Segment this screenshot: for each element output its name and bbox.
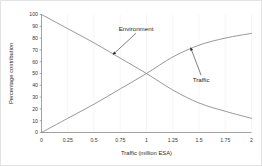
x-tick-label: 0.5 — [90, 137, 97, 143]
annotation-leader-line — [113, 33, 136, 54]
y-tick-label: 70 — [32, 47, 38, 53]
y-tick-label: 50 — [32, 70, 38, 76]
x-tick-label: 2 — [250, 137, 253, 143]
x-axis-title: Traffic (million ESA) — [121, 150, 172, 156]
x-tick-label: 1.25 — [168, 137, 178, 143]
y-axis-ticks: 0102030405060708090100 — [29, 11, 41, 135]
y-tick-label: 80 — [32, 35, 38, 41]
x-tick-label: 0.75 — [115, 137, 125, 143]
y-tick-label: 60 — [32, 59, 38, 65]
y-tick-label: 40 — [32, 82, 38, 88]
gridlines — [68, 15, 252, 133]
y-tick-label: 90 — [32, 23, 38, 29]
y-tick-label: 20 — [32, 106, 38, 112]
y-tick-label: 0 — [35, 129, 38, 135]
x-tick-label: 1.5 — [195, 137, 202, 143]
x-axis-ticks: 00.250.50.7511.251.51.752 — [40, 137, 253, 143]
annotation-label-environment: Environment — [119, 25, 154, 32]
x-tick-label: 0.25 — [63, 137, 73, 143]
annotation-label-traffic: Traffic — [193, 76, 210, 83]
chart-figure: 00.250.50.7511.251.51.752 01020304050607… — [0, 0, 262, 166]
y-tick-label: 100 — [29, 11, 38, 17]
y-axis-title: Percentage contribution — [8, 43, 14, 104]
y-tick-label: 10 — [32, 118, 38, 124]
x-tick-label: 1 — [145, 137, 148, 143]
line-chart: 00.250.50.7511.251.51.752 01020304050607… — [1, 1, 262, 166]
y-tick-label: 30 — [32, 94, 38, 100]
x-tick-label: 0 — [40, 137, 43, 143]
x-tick-label: 1.75 — [220, 137, 230, 143]
series-annotations: EnvironmentTraffic — [113, 25, 210, 83]
annotation-leader-line — [191, 48, 202, 76]
